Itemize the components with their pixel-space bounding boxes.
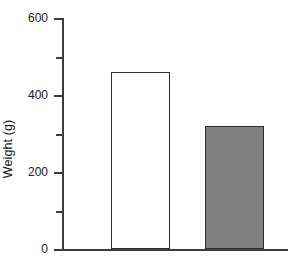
y-minor-tick-300 [56,134,62,136]
y-tick-label-600: 600 [6,12,48,24]
y-minor-tick-100 [56,211,62,213]
y-tick-600 [54,18,62,20]
y-minor-tick-500 [56,57,62,59]
y-tick-label-400: 400 [6,89,48,101]
y-tick-label-200: 200 [6,166,48,178]
y-tick-0 [54,249,62,251]
bar-series-2 [205,126,264,249]
y-tick-200 [54,172,62,174]
bar-chart: Weight (g) 600 400 200 0 [0,0,299,274]
y-tick-400 [54,95,62,97]
plot-area: Weight (g) 600 400 200 0 [0,0,299,274]
y-tick-label-0: 0 [6,243,48,255]
bar-series-1 [111,72,170,249]
x-axis-line [62,249,288,251]
y-axis-title: Weight (g) [0,0,22,274]
y-axis-line [62,18,64,251]
